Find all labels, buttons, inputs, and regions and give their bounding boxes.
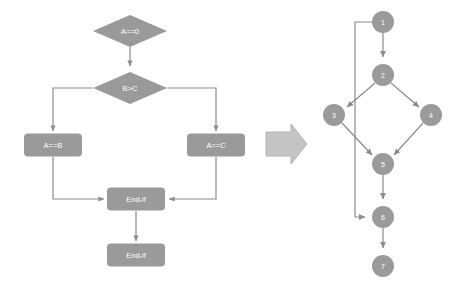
flow-node-a-eq-0[interactable]: A==0 (93, 15, 167, 47)
flow-node-a-eq-b-label: A==B (44, 141, 63, 150)
transform-arrow-icon (266, 124, 307, 164)
flow-node-b-gt-c-label: B>C (123, 84, 138, 93)
flow-edge-ac-to-endif (169, 157, 216, 199)
flow-edge-ab-to-endif (53, 157, 104, 199)
flow-node-end-if-2[interactable]: End-if (107, 244, 165, 267)
cfg-node-3-label: 3 (332, 112, 336, 119)
diagram-canvas: A==0 B>C A==B A==C End-if End-if (0, 0, 464, 284)
cfg-edge-2-4 (391, 83, 419, 107)
cfg-edge-4-5 (394, 123, 423, 155)
cfg-node-2-label: 2 (381, 72, 385, 79)
flow-node-a-eq-c-label: A==C (206, 141, 226, 150)
cfg-node-7-label: 7 (381, 263, 385, 270)
cfg-node-6-label: 6 (381, 214, 385, 221)
flow-node-end-if-1-label: End-if (126, 195, 147, 204)
cfg-node-5[interactable]: 5 (372, 153, 394, 175)
flowchart-nodes: A==0 B>C A==B A==C End-if End-if (24, 15, 245, 267)
flow-node-end-if-2-label: End-if (126, 251, 147, 260)
flow-node-a-eq-b[interactable]: A==B (24, 134, 82, 157)
flow-edge-bc-to-ab (53, 88, 93, 131)
cfg-node-7[interactable]: 7 (372, 255, 394, 277)
cfg-node-4-label: 4 (429, 112, 433, 119)
cfg-edge-2-3 (347, 83, 375, 107)
flow-edge-bc-to-ac (167, 88, 216, 131)
cfg-node-6[interactable]: 6 (372, 206, 394, 228)
cfg-node-2[interactable]: 2 (372, 64, 394, 86)
cfg-node-3[interactable]: 3 (323, 104, 345, 126)
cfg-edge-1-6 (355, 22, 372, 217)
cfg-node-1[interactable]: 1 (372, 11, 394, 33)
cfg-edge-3-5 (342, 123, 372, 155)
flow-node-end-if-1[interactable]: End-if (107, 188, 165, 211)
flow-node-a-eq-0-label: A==0 (121, 27, 139, 36)
flow-node-a-eq-c[interactable]: A==C (187, 134, 245, 157)
flow-node-b-gt-c[interactable]: B>C (93, 72, 167, 104)
cfg-node-5-label: 5 (381, 161, 385, 168)
cfg-node-1-label: 1 (381, 19, 385, 26)
cfg-node-4[interactable]: 4 (420, 104, 442, 126)
diagram-svg: A==0 B>C A==B A==C End-if End-if (0, 0, 464, 284)
